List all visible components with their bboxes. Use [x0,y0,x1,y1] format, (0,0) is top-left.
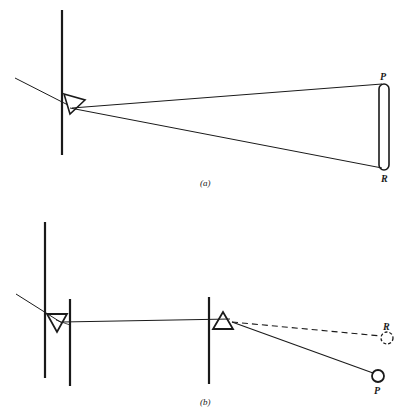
label-p-b: P [374,385,381,396]
spectrum-screen-a [379,84,389,170]
prism-b-second [213,312,233,329]
label-p-a: P [380,71,387,82]
ray-between-prisms [62,319,230,322]
ray-to-r-a [70,108,382,168]
ray-dashed-to-r [232,322,381,336]
prism-a [64,94,85,114]
figure-diagram: P R (a) R P (b) [0,0,411,416]
label-r-a: R [380,173,388,184]
panel-b [16,222,393,386]
label-r-b: R [382,321,390,332]
caption-a: (a) [200,178,211,188]
ray-solid-to-p [232,322,373,373]
panel-a [15,10,389,170]
caption-b: (b) [200,397,211,407]
incoming-ray-a [15,78,68,105]
incoming-ray-b [16,294,62,323]
target-r-dashed [381,332,393,344]
target-p-solid [372,370,384,382]
ray-to-p-a [72,84,382,108]
